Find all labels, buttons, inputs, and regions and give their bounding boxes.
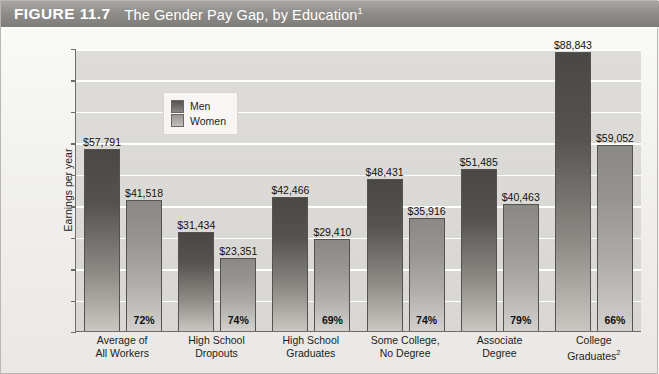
legend-item-women: Women [171, 114, 226, 127]
bar-ratio-label: 79% [510, 314, 531, 326]
bar-value-label-women: $40,463 [502, 191, 540, 203]
bar-men: $48,431 [367, 179, 403, 331]
figure-title-text: The Gender Pay Gap, by Education [125, 6, 358, 22]
bar-value-label-men: $88,843 [554, 39, 592, 51]
bar-ratio-label: 69% [322, 314, 343, 326]
category-label-line2: Degree [452, 347, 546, 360]
category-label: CollegeGraduates2 [547, 334, 641, 362]
category-label-line2: Graduates [264, 347, 358, 360]
category-label-footnote: 2 [616, 348, 620, 357]
bar-men: $42,466 [272, 197, 308, 331]
bar-value-label-women: $29,410 [313, 226, 351, 238]
category-label-line1: College [547, 334, 641, 347]
bar-value-label-women: $23,351 [219, 245, 257, 257]
category-label-line1: Associate [452, 334, 546, 347]
bar-women: $40,46379% [503, 204, 539, 331]
bar-group: $57,791$41,51872% [76, 49, 170, 331]
bar-ratio-label: 72% [134, 314, 155, 326]
figure-title-footnote: 1 [358, 6, 363, 16]
bar-men: $57,791 [84, 149, 120, 331]
figure-title: The Gender Pay Gap, by Education1 [125, 6, 363, 23]
bar-value-label-men: $57,791 [83, 136, 121, 148]
bar-ratio-label: 66% [604, 314, 625, 326]
bar-women: $23,35174% [220, 258, 256, 331]
legend-item-men: Men [171, 100, 226, 113]
bar-group: $48,431$35,91674% [359, 49, 453, 331]
category-label-line2: No Degree [358, 347, 452, 360]
legend-swatch-women-icon [171, 114, 184, 127]
category-label-line1: High School [264, 334, 358, 347]
bar-women: $29,41069% [314, 239, 350, 331]
category-label-line2: Graduates2 [547, 347, 641, 362]
bar-ratio-label: 74% [416, 314, 437, 326]
legend-label-women: Women [190, 115, 226, 127]
category-label: AssociateDegree [452, 334, 546, 362]
legend-label-men: Men [190, 100, 210, 112]
plot-area: Earnings per year $90,000$80,000$70,000$… [75, 49, 641, 332]
category-label: Average ofAll Workers [75, 334, 169, 362]
bar-women: $59,05266% [597, 145, 633, 331]
bar-value-label-men: $48,431 [366, 166, 404, 178]
bar-group: $88,843$59,05266% [547, 49, 641, 331]
category-label-line1: Some College, [358, 334, 452, 347]
bar-group: $51,485$40,46379% [453, 49, 547, 331]
bar-value-label-women: $35,916 [408, 205, 446, 217]
category-label-row: Average ofAll WorkersHigh SchoolDropouts… [75, 334, 641, 362]
figure-number: FIGURE 11.7 [14, 5, 111, 23]
category-label: Some College,No Degree [358, 334, 452, 362]
y-axis-label: Earnings per year [62, 149, 74, 232]
category-label-line2: Dropouts [169, 347, 263, 360]
plot-area-wrapper: Earnings per year $90,000$80,000$70,000$… [75, 49, 641, 332]
bar-value-label-men: $51,485 [460, 156, 498, 168]
bar-value-label-women: $59,052 [596, 132, 634, 144]
chart-legend: Men Women [163, 92, 238, 135]
bar-men: $31,434 [178, 232, 214, 331]
bar-groups: $57,791$41,51872%$31,434$23,35174%$42,46… [76, 49, 641, 331]
bar-men: $51,485 [461, 169, 497, 331]
bar-ratio-label: 74% [228, 314, 249, 326]
bar-value-label-men: $31,434 [177, 219, 215, 231]
bar-women: $41,51872% [126, 200, 162, 331]
bar-women: $35,91674% [409, 218, 445, 331]
bar-value-label-men: $42,466 [271, 184, 309, 196]
figure-title-bar: FIGURE 11.7 The Gender Pay Gap, by Educa… [1, 1, 659, 27]
category-label-line2: All Workers [75, 347, 169, 360]
bar-group: $42,466$29,41069% [264, 49, 358, 331]
category-label: High SchoolGraduates [264, 334, 358, 362]
bar-value-label-women: $41,518 [125, 187, 163, 199]
category-label: High SchoolDropouts [169, 334, 263, 362]
legend-swatch-men-icon [171, 100, 184, 113]
category-label-line1: Average of [75, 334, 169, 347]
category-label-line1: High School [169, 334, 263, 347]
bar-men: $88,843 [555, 52, 591, 331]
